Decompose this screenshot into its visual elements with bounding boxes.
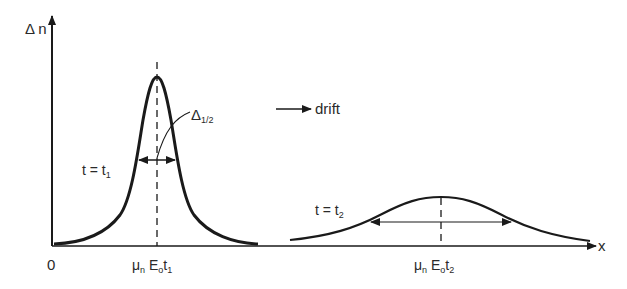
pulse1-time-label: t = t1: [82, 162, 111, 180]
pulse1-position-label: μn Eot1: [132, 257, 172, 275]
y-axis-label: Δ n: [25, 20, 47, 37]
pulse1-mu: μ: [132, 257, 140, 273]
halfwidth-label: Δ1/2: [191, 106, 214, 125]
pulse2-pos-sub: 2: [449, 265, 454, 275]
pulse2-time-label: t = t2: [315, 202, 344, 220]
pulse2-time-sub: 2: [339, 210, 344, 220]
origin-label: 0: [47, 256, 55, 273]
halfwidth-subscript: 1/2: [201, 115, 214, 125]
x-axis-label: x: [598, 237, 606, 254]
pulse1-time-text: t = t: [82, 162, 106, 178]
pulse1-E: E: [145, 257, 158, 273]
pulse1-time-sub: 1: [106, 170, 111, 180]
pulse2-time-text: t = t: [315, 202, 339, 218]
halfwidth-symbol: Δ: [191, 106, 201, 123]
drift-diffusion-diagram: [0, 0, 627, 289]
drift-label: drift: [315, 100, 340, 117]
pulse2-E: E: [427, 257, 440, 273]
pulse1-pos-sub: 1: [167, 265, 172, 275]
pulse2-position-label: μn Eot2: [414, 257, 454, 275]
pulse2-mu: μ: [414, 257, 422, 273]
